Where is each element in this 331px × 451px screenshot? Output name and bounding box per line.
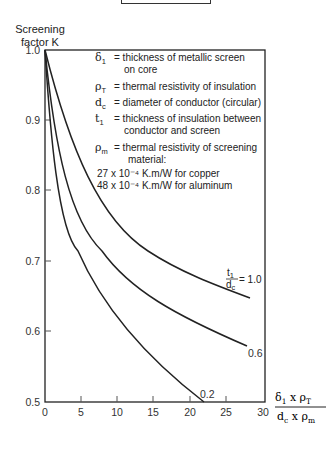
svg-text:material:: material:	[128, 154, 166, 165]
svg-text:= 1.0: = 1.0	[239, 274, 262, 285]
svg-text:δ1 x ρT: δ1 x ρT	[275, 391, 311, 406]
x-axis: 0 5 10 15 20 25 30	[42, 396, 269, 418]
x-tick-0: 0	[42, 406, 48, 418]
x-tick-15: 15	[147, 406, 159, 418]
svg-text:ρT: ρT	[95, 80, 106, 95]
curve-label-1.0: t1 dc = 1.0	[226, 267, 262, 292]
legend-dc: = diameter of conductor (circular)	[114, 97, 261, 108]
x-tick-10: 10	[111, 406, 123, 418]
curve-t1dc-0.6	[45, 50, 247, 346]
y-tick-0.9: 0.9	[25, 114, 40, 126]
legend-note-copper: 27 x 10⁻⁴ K.m/W for copper	[97, 168, 220, 179]
x-tick-30: 30	[257, 406, 269, 418]
legend-rhoT: = thermal resistivity of insulation	[114, 81, 256, 92]
legend: δ1 = thickness of metallic screen on cor…	[95, 51, 261, 191]
x-tick-25: 25	[220, 406, 232, 418]
chart-svg: 1.0 0.9 0.8 0.7 0.6 0.5 0 5 10 15 20 25 …	[0, 0, 331, 451]
x-tick-5: 5	[78, 406, 84, 418]
svg-text:ρm: ρm	[95, 141, 108, 156]
legend-delta1: = thickness of metallic screen	[114, 52, 245, 63]
svg-text:δ1: δ1	[95, 51, 106, 66]
svg-text:conductor and screen: conductor and screen	[124, 125, 220, 136]
svg-text:dc: dc	[95, 96, 106, 111]
y-tick-0.8: 0.8	[25, 184, 40, 196]
svg-text:dc x ρm: dc x ρm	[277, 410, 315, 425]
svg-text:t1: t1	[95, 112, 104, 127]
curve-label-0.6: 0.6	[248, 347, 263, 359]
legend-rhom: = thermal resistivity of screening	[114, 142, 257, 153]
y-tick-0.7: 0.7	[25, 255, 40, 267]
legend-t1: = thickness of insulation between	[114, 113, 261, 124]
curve-label-0.2: 0.2	[200, 388, 215, 400]
svg-text:on core: on core	[124, 64, 158, 75]
x-tick-20: 20	[184, 406, 196, 418]
y-tick-0.6: 0.6	[25, 325, 40, 337]
y-tick-0.5: 0.5	[25, 396, 40, 408]
y-tick-1.0: 1.0	[25, 44, 40, 56]
x-axis-label: δ1 x ρT dc x ρm	[275, 391, 326, 425]
legend-note-aluminum: 48 x 10⁻⁴ K.m/W for aluminum	[97, 180, 232, 191]
y-axis: 1.0 0.9 0.8 0.7 0.6 0.5	[25, 44, 51, 408]
